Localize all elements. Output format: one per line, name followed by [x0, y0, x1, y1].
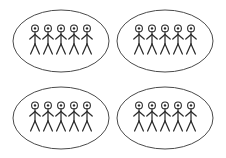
figure-left-leg [161, 121, 165, 131]
figure-right-leg [191, 44, 195, 54]
figure-right-arm [178, 112, 183, 117]
figure-right-arm [61, 35, 66, 40]
figure-left-leg [70, 121, 74, 131]
figure-face-dot-icon [138, 27, 140, 29]
figure-right-leg [87, 121, 91, 131]
figure-left-arm [173, 35, 178, 40]
figure-right-arm [165, 112, 170, 117]
stick-figure [147, 25, 157, 54]
figure-right-arm [178, 35, 183, 40]
group-top-left [13, 10, 109, 72]
figure-face-dot-icon [47, 27, 49, 29]
figure-left-arm [160, 112, 165, 117]
figure-right-arm [165, 35, 170, 40]
figure-right-leg [191, 121, 195, 131]
figure-left-arm [160, 35, 165, 40]
figure-left-leg [44, 44, 48, 54]
figure-right-leg [139, 121, 143, 131]
figure-right-arm [139, 112, 144, 117]
figure-left-arm [56, 112, 61, 117]
figure-right-leg [152, 44, 156, 54]
stick-figure [173, 102, 183, 131]
stick-figure [160, 102, 170, 131]
stick-figure [134, 25, 144, 54]
figure-face-dot-icon [73, 104, 75, 106]
figure-left-leg [148, 44, 152, 54]
figure-right-leg [178, 121, 182, 131]
figure-left-arm [147, 112, 152, 117]
figure-face-dot-icon [138, 104, 140, 106]
figure-face-dot-icon [164, 104, 166, 106]
figure-left-arm [30, 112, 35, 117]
figure-right-leg [165, 121, 169, 131]
figure-right-arm [191, 35, 196, 40]
figure-left-arm [134, 112, 139, 117]
stick-figure [160, 25, 170, 54]
figure-right-leg [178, 44, 182, 54]
group-bottom-right [117, 87, 213, 149]
figure-left-leg [31, 44, 35, 54]
figure-left-leg [187, 121, 191, 131]
figure-left-arm [186, 35, 191, 40]
figure-left-leg [161, 44, 165, 54]
diagram-canvas [0, 0, 226, 158]
figure-right-arm [139, 35, 144, 40]
figure-right-arm [87, 112, 92, 117]
figure-right-arm [35, 35, 40, 40]
figure-right-arm [35, 112, 40, 117]
stick-figure [134, 102, 144, 131]
figure-face-dot-icon [60, 104, 62, 106]
figure-left-arm [43, 35, 48, 40]
figure-right-arm [152, 35, 157, 40]
figure-right-arm [87, 35, 92, 40]
figure-left-leg [57, 121, 61, 131]
figure-face-dot-icon [86, 27, 88, 29]
figure-right-leg [87, 44, 91, 54]
stick-figure [43, 25, 53, 54]
figure-face-dot-icon [86, 104, 88, 106]
figure-face-dot-icon [73, 27, 75, 29]
figure-right-arm [48, 35, 53, 40]
figure-right-leg [165, 44, 169, 54]
figure-right-leg [74, 44, 78, 54]
figure-right-leg [35, 121, 39, 131]
figure-right-leg [74, 121, 78, 131]
figure-face-dot-icon [34, 104, 36, 106]
figure-face-dot-icon [177, 104, 179, 106]
figure-left-arm [147, 35, 152, 40]
stick-figure [43, 102, 53, 131]
stick-figure [173, 25, 183, 54]
figure-left-leg [83, 121, 87, 131]
figure-face-dot-icon [190, 104, 192, 106]
stick-figure [69, 102, 79, 131]
figure-right-leg [48, 121, 52, 131]
figure-left-arm [186, 112, 191, 117]
figure-left-arm [69, 35, 74, 40]
figure-left-arm [30, 35, 35, 40]
figure-left-leg [31, 121, 35, 131]
stick-figure [82, 102, 92, 131]
figure-face-dot-icon [60, 27, 62, 29]
figure-right-arm [152, 112, 157, 117]
figure-face-dot-icon [34, 27, 36, 29]
stick-figure [30, 25, 40, 54]
figure-left-arm [173, 112, 178, 117]
figure-right-arm [48, 112, 53, 117]
figure-left-arm [56, 35, 61, 40]
figure-left-leg [174, 44, 178, 54]
stick-figure [69, 25, 79, 54]
stick-figure [30, 102, 40, 131]
figure-left-arm [82, 112, 87, 117]
figure-left-leg [135, 44, 139, 54]
figure-right-leg [152, 121, 156, 131]
figure-right-arm [61, 112, 66, 117]
stick-figure [147, 102, 157, 131]
figure-left-arm [69, 112, 74, 117]
figure-left-leg [148, 121, 152, 131]
figure-right-leg [139, 44, 143, 54]
figure-left-arm [82, 35, 87, 40]
figure-right-leg [61, 121, 65, 131]
stick-figure [56, 102, 66, 131]
figure-left-leg [83, 44, 87, 54]
figure-right-leg [61, 44, 65, 54]
